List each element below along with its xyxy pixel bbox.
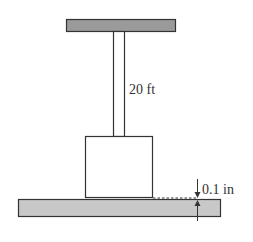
rod: [114, 32, 125, 137]
rod-length-label: 20 ft: [129, 82, 155, 97]
diagram-canvas: 20 ft 0.1 in: [0, 0, 253, 242]
floor-plate: [19, 200, 221, 217]
gap-arrow-down-icon: [195, 192, 201, 198]
hanging-block: [86, 137, 153, 198]
gap-label: 0.1 in: [202, 182, 234, 197]
ceiling-plate: [67, 20, 176, 32]
